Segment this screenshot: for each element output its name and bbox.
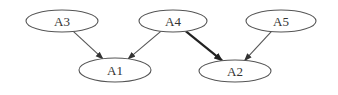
edges-layer (73, 31, 271, 61)
node-a3: A3 (26, 10, 98, 32)
edge-a3-to-a1 (73, 31, 103, 58)
node-label: A4 (165, 14, 181, 29)
edge-a5-to-a2 (245, 32, 272, 61)
node-a2: A2 (199, 60, 271, 82)
edge-a4-to-a2 (186, 31, 223, 61)
node-label: A5 (273, 14, 289, 29)
nodes-layer: A3A4A5A1A2 (26, 10, 316, 82)
node-a4: A4 (139, 10, 207, 32)
node-a5: A5 (246, 10, 316, 32)
edge-a4-to-a1 (128, 31, 161, 59)
node-label: A3 (54, 14, 70, 29)
node-a1: A1 (79, 58, 151, 82)
diagram-canvas: A3A4A5A1A2 (0, 0, 338, 95)
node-label: A1 (107, 63, 123, 78)
node-label: A2 (227, 64, 243, 79)
